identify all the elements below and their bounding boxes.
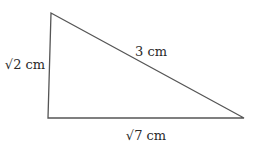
triangle-diagram: √2 cm 3 cm √7 cm <box>0 0 255 145</box>
left-side-label: √2 cm <box>5 57 45 72</box>
triangle-shape <box>48 13 244 118</box>
hypotenuse-label: 3 cm <box>135 44 167 59</box>
bottom-side-label: √7 cm <box>126 128 166 143</box>
